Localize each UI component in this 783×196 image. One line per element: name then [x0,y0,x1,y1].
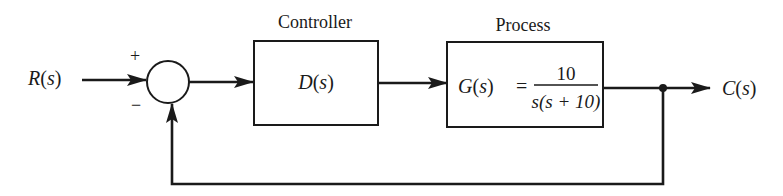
control-block-diagram: R(s) + − Controller D(s) Process G(s) = … [0,0,783,196]
output-label: C(s) [722,77,756,100]
process-tf-denominator: s(s + 10) [532,91,601,113]
process-tf-lhs: G(s) [458,75,494,98]
input-label: R(s) [27,67,61,90]
process-tf-numerator: 10 [557,63,576,84]
controller-title: Controller [278,12,352,32]
process-title: Process [496,15,551,35]
process-tf-equals: = [516,75,527,97]
controller-transfer-function: D(s) [297,71,334,94]
summing-junction [147,61,189,103]
minus-sign: − [131,95,141,115]
plus-sign: + [130,46,140,66]
